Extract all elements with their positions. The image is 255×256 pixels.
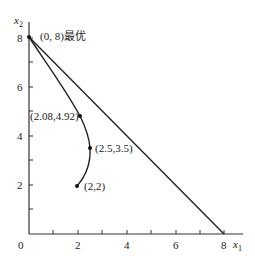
- y-tick-label-4: 4: [17, 130, 23, 142]
- y-tick-label-8: 8: [17, 32, 23, 44]
- label-2-08-4-92: (2.08,4.92): [30, 110, 79, 123]
- y-axis-label: x2: [13, 14, 23, 29]
- point-2-2: [75, 184, 79, 188]
- y-tick-label-6: 6: [17, 81, 23, 93]
- label-2-2: (2,2): [84, 180, 105, 193]
- label-optimum: (0, 8)最优: [40, 30, 86, 43]
- point-2-5-3-5: [88, 146, 92, 150]
- y-tick-label-2: 2: [17, 179, 23, 191]
- x-tick-label-2: 2: [75, 239, 81, 251]
- point-optimum: [27, 35, 31, 39]
- x-tick-label-4: 4: [124, 239, 130, 251]
- x-tick-label-6: 6: [173, 239, 179, 251]
- diagram-canvas: 0 2 4 6 8 2 4 6 8 x1 x2 (0, 8)最优 (2.08,4…: [0, 0, 255, 256]
- label-2-5-3-5: (2.5,3.5): [95, 142, 133, 155]
- x-tick-label-8: 8: [221, 239, 227, 251]
- constraint-line: [29, 37, 224, 234]
- origin-label: 0: [18, 239, 24, 251]
- x-axis-label: x1: [232, 238, 242, 253]
- point-2-08-4-92: [78, 114, 82, 118]
